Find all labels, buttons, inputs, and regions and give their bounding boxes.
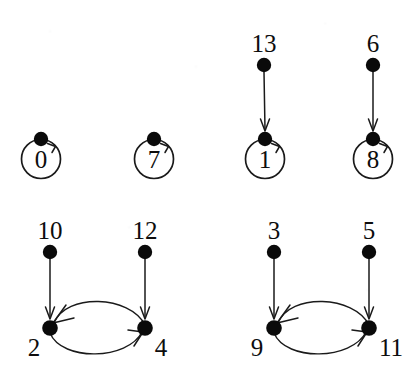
node-dot-9[interactable]	[266, 320, 282, 336]
node-dot-12[interactable]	[138, 245, 152, 259]
node-dot-3[interactable]	[267, 245, 281, 259]
node-label-4: 4	[155, 334, 168, 361]
edge-11-to-9	[278, 301, 369, 325]
graph-canvas: 0 7 13 1 6 8	[0, 0, 417, 392]
node-dot-11[interactable]	[361, 320, 377, 336]
node-dot-6[interactable]	[366, 58, 380, 72]
node-dot-7[interactable]	[147, 132, 161, 146]
component-8: 6 8	[354, 30, 393, 179]
node-label-7: 7	[148, 146, 161, 173]
edge-2-to-4	[50, 332, 142, 354]
component-0: 0	[22, 132, 61, 179]
arrowhead-4-to-2	[53, 305, 74, 323]
node-label-2: 2	[28, 334, 41, 361]
node-dot-1[interactable]	[258, 132, 272, 146]
node-label-5: 5	[363, 217, 376, 244]
node-label-13: 13	[252, 30, 277, 57]
node-dot-8[interactable]	[366, 132, 380, 146]
edge-13-to-1	[264, 72, 265, 130]
node-label-9: 9	[251, 334, 264, 361]
arrowhead-11-to-9	[277, 305, 298, 323]
node-dot-13[interactable]	[257, 58, 271, 72]
component-2-4: 10 12 2 4	[28, 217, 168, 361]
node-label-11: 11	[379, 334, 403, 361]
node-dot-0[interactable]	[34, 132, 48, 146]
node-label-6: 6	[367, 30, 380, 57]
node-dot-2[interactable]	[42, 320, 58, 336]
node-label-3: 3	[268, 217, 281, 244]
node-label-0: 0	[35, 146, 48, 173]
edge-4-to-2	[54, 301, 145, 325]
node-dot-10[interactable]	[43, 245, 57, 259]
node-label-10: 10	[38, 217, 63, 244]
node-dot-4[interactable]	[137, 320, 153, 336]
component-7: 7	[135, 132, 174, 179]
node-dot-5[interactable]	[362, 245, 376, 259]
component-9-11: 3 5 9 11	[251, 217, 403, 361]
node-label-1: 1	[259, 146, 272, 173]
node-label-8: 8	[367, 146, 380, 173]
component-1: 13 1	[246, 30, 285, 179]
node-label-12: 12	[133, 217, 158, 244]
edge-9-to-11	[274, 332, 366, 354]
